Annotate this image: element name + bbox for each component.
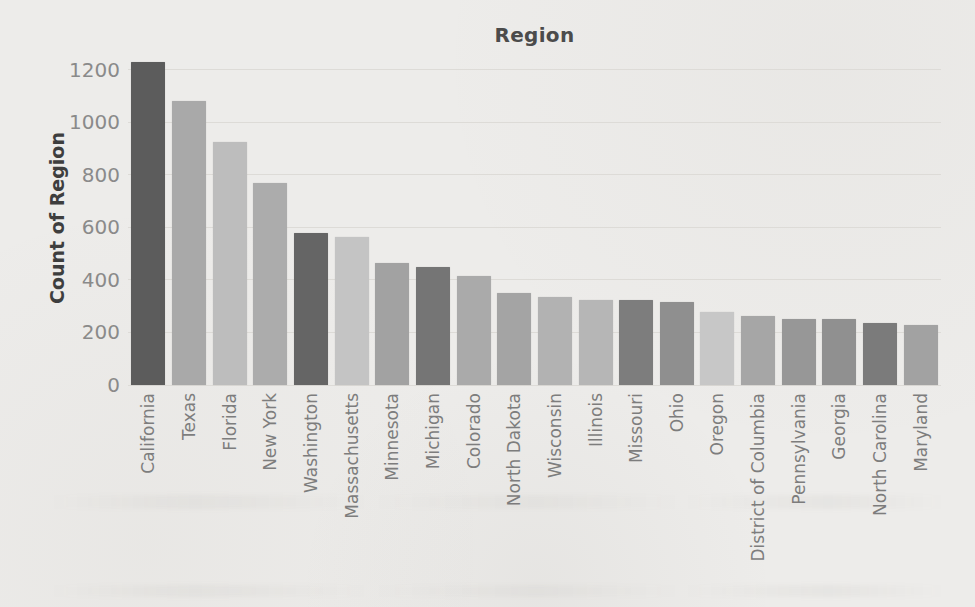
x-tick-label-north-dakota: North Dakota bbox=[504, 393, 524, 506]
x-tick-label-new-york: New York bbox=[260, 393, 280, 471]
x-tick-label-ohio: Ohio bbox=[667, 393, 687, 432]
scanned-bar-chart-page: Region Count of Region 02004006008001000… bbox=[0, 0, 975, 607]
x-tick-label-pennsylvania: Pennsylvania bbox=[789, 393, 809, 505]
gridline-y-200 bbox=[128, 332, 941, 333]
x-tick-label-washington: Washington bbox=[301, 393, 321, 493]
bar-missouri bbox=[619, 300, 653, 385]
y-tick-label-200: 200 bbox=[60, 322, 120, 342]
bar-ohio bbox=[660, 302, 694, 385]
bar-pennsylvania bbox=[782, 319, 816, 385]
bar-maryland bbox=[904, 325, 938, 385]
gridline-y-400 bbox=[128, 279, 941, 280]
y-tick-label-800: 800 bbox=[60, 165, 120, 185]
bar-north-dakota bbox=[497, 293, 531, 385]
x-tick-label-wisconsin: Wisconsin bbox=[545, 393, 565, 478]
gridline-y-0 bbox=[128, 385, 941, 386]
bar-oregon bbox=[700, 312, 734, 385]
x-tick-label-georgia: Georgia bbox=[829, 393, 849, 460]
x-tick-label-michigan: Michigan bbox=[423, 393, 443, 469]
chart-title: Region bbox=[128, 23, 941, 47]
x-tick-label-district-of-columbia: District of Columbia bbox=[748, 393, 768, 562]
gridline-y-800 bbox=[128, 174, 941, 175]
x-tick-label-colorado: Colorado bbox=[464, 393, 484, 469]
gridline-y-600 bbox=[128, 227, 941, 228]
page-bleed-through-artifact bbox=[0, 495, 975, 509]
x-tick-label-oregon: Oregon bbox=[707, 393, 727, 455]
bar-georgia bbox=[822, 319, 856, 385]
plot-area bbox=[128, 55, 941, 385]
bar-washington bbox=[294, 233, 328, 385]
bar-district-of-columbia bbox=[741, 316, 775, 385]
bar-michigan bbox=[416, 267, 450, 385]
y-tick-label-600: 600 bbox=[60, 217, 120, 237]
bar-texas bbox=[172, 101, 206, 385]
x-tick-label-california: California bbox=[138, 393, 158, 474]
bar-california bbox=[131, 62, 165, 385]
y-tick-label-400: 400 bbox=[60, 270, 120, 290]
x-tick-label-minnesota: Minnesota bbox=[382, 393, 402, 481]
gridline-y-1000 bbox=[128, 122, 941, 123]
x-tick-label-maryland: Maryland bbox=[911, 393, 931, 472]
y-tick-label-1000: 1000 bbox=[60, 112, 120, 132]
bar-illinois bbox=[579, 300, 613, 385]
page-bleed-through-artifact bbox=[0, 585, 975, 597]
bar-massachusetts bbox=[335, 237, 369, 385]
bar-minnesota bbox=[375, 263, 409, 385]
bar-wisconsin bbox=[538, 297, 572, 385]
y-tick-label-1200: 1200 bbox=[60, 60, 120, 80]
y-tick-label-0: 0 bbox=[60, 375, 120, 395]
bar-colorado bbox=[457, 276, 491, 385]
x-tick-label-illinois: Illinois bbox=[586, 393, 606, 447]
bar-new-york bbox=[253, 183, 287, 385]
x-tick-label-texas: Texas bbox=[179, 393, 199, 440]
x-tick-label-missouri: Missouri bbox=[626, 393, 646, 463]
bar-north-carolina bbox=[863, 323, 897, 385]
x-tick-label-florida: Florida bbox=[220, 393, 240, 451]
gridline-y-1200 bbox=[128, 69, 941, 70]
bar-florida bbox=[213, 142, 247, 385]
